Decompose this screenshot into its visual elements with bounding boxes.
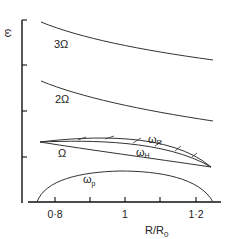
y-axis: ω xyxy=(3,20,27,203)
x-axis: 0·8 1 1·2 R/R0 xyxy=(28,197,221,239)
x-tick-1.2: 1·2 xyxy=(188,208,203,220)
x-tick-0.8: 0·8 xyxy=(47,208,62,220)
label-omega-r: ωR xyxy=(148,133,162,146)
curve-3omega: 3Ω xyxy=(41,22,213,60)
x-axis-label: R/R0 xyxy=(145,224,169,239)
y-axis-label: ω xyxy=(3,29,15,38)
frequency-diagram: ω 0·8 1 1·2 R/R0 3Ω 2Ω xyxy=(0,0,228,239)
label-omega-h: ωH xyxy=(136,146,150,159)
label-2omega: 2Ω xyxy=(55,93,69,105)
label-3omega: 3Ω xyxy=(54,38,68,50)
x-tick-1: 1 xyxy=(122,208,128,220)
lens-region: Ω ωR ωH xyxy=(40,133,211,167)
label-omega: Ω xyxy=(58,147,66,159)
label-omega-p: ωp xyxy=(83,173,96,188)
curve-2omega: 2Ω xyxy=(41,81,213,121)
